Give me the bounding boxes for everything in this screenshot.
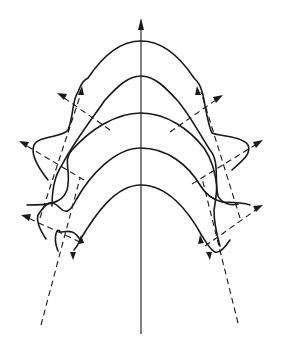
right-ray-middle bbox=[192, 142, 260, 184]
right-ray-lower bbox=[205, 207, 260, 246]
arrow-right-top-icon bbox=[213, 95, 223, 103]
wavefront-diagram bbox=[0, 0, 282, 349]
arrow-right-middle-icon bbox=[253, 140, 263, 148]
arrow-right-down-icon bbox=[206, 252, 212, 260]
left-ray-lower bbox=[24, 216, 80, 242]
symmetry-axis bbox=[138, 18, 144, 334]
wavefronts bbox=[27, 41, 250, 252]
arrow-left-lower-icon bbox=[21, 214, 31, 221]
axis-arrow-icon bbox=[138, 18, 144, 30]
arrow-left-middle-icon bbox=[19, 141, 29, 148]
left-ray-middle bbox=[22, 143, 84, 180]
arrow-left-down-icon bbox=[70, 252, 76, 260]
